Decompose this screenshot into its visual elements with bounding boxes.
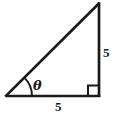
side-label-horizontal-leg: 5 xyxy=(55,100,62,113)
right-triangle-figure: 5 5 θ xyxy=(0,0,117,117)
angle-label-theta: θ xyxy=(33,79,42,92)
triangle-side-hypotenuse xyxy=(5,3,99,97)
side-label-vertical-leg: 5 xyxy=(103,46,110,59)
right-angle-marker xyxy=(88,86,98,96)
angle-arc-theta xyxy=(24,78,32,96)
